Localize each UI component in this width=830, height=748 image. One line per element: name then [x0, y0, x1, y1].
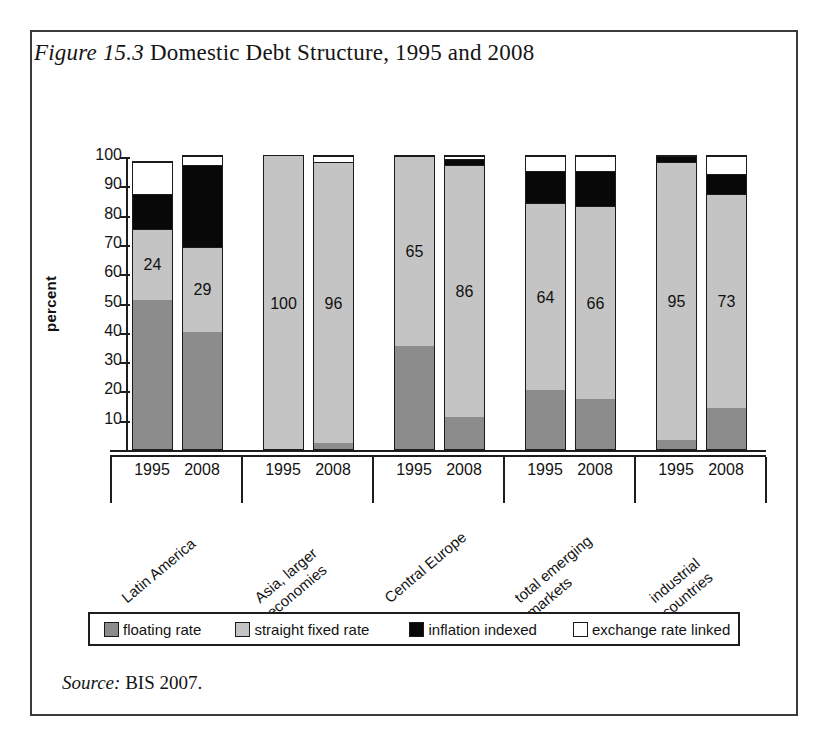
source-label: Source:	[62, 672, 120, 693]
stacked-bar[interactable]: 64	[525, 155, 566, 450]
bar-segment-floating[interactable]	[133, 300, 172, 449]
bar-segment-exchange[interactable]	[314, 156, 353, 162]
segment-divider	[707, 174, 746, 175]
segment-divider	[133, 229, 172, 230]
x-axis-year-label: 1995	[519, 461, 571, 479]
bar-segment-inflation[interactable]	[133, 194, 172, 229]
figure-title-text: Domestic Debt Structure, 1995 and 2008	[144, 40, 534, 65]
segment-divider	[657, 162, 696, 163]
group-name-line1: Central Europe	[381, 528, 469, 606]
bar-group: 6586	[372, 127, 503, 452]
chart-legend: floating ratestraight fixed rateinflatio…	[88, 612, 740, 646]
bar-segment-inflation[interactable]	[526, 171, 565, 203]
segment-divider	[133, 194, 172, 195]
bar-segment-floating[interactable]	[707, 408, 746, 449]
bar-segment-exchange[interactable]	[445, 156, 484, 159]
segment-divider	[576, 206, 615, 207]
legend-item-exchange[interactable]: exchange rate linked	[573, 621, 730, 638]
bar-value-label: 86	[445, 283, 484, 301]
bar-value-label: 95	[657, 293, 696, 311]
group-name-label: Latin America	[118, 535, 200, 608]
bar-segment-floating[interactable]	[445, 417, 484, 449]
segment-divider	[183, 156, 222, 157]
bar-segment-exchange[interactable]	[576, 156, 615, 171]
segment-divider	[314, 162, 353, 163]
bar-segment-inflation[interactable]	[445, 159, 484, 165]
legend-item-fixed[interactable]: straight fixed rate	[235, 621, 369, 638]
bar-segment-floating[interactable]	[526, 390, 565, 449]
bar-group: 6466	[503, 127, 634, 452]
x-axis-group-separator	[241, 457, 243, 503]
segment-divider	[314, 156, 353, 157]
y-axis-title: percent	[42, 276, 59, 332]
segment-divider	[445, 159, 484, 160]
legend-swatch-fixed	[235, 622, 250, 637]
bar-segment-floating[interactable]	[314, 443, 353, 449]
stacked-bar[interactable]: 24	[132, 161, 173, 450]
x-axis-year-band: 1995200819952008199520081995200819952008	[66, 455, 766, 505]
figure-number: Figure 15.3	[34, 40, 144, 65]
bar-segment-exchange[interactable]	[183, 156, 222, 165]
bar-group: 10096	[241, 127, 372, 452]
bar-value-label: 100	[264, 295, 303, 313]
stacked-bar[interactable]: 95	[656, 155, 697, 450]
bar-segment-floating[interactable]	[395, 346, 434, 449]
source-text: BIS 2007.	[120, 672, 202, 693]
legend-label: inflation indexed	[428, 621, 536, 638]
stacked-bar[interactable]: 65	[394, 155, 435, 450]
stacked-bar[interactable]: 73	[706, 155, 747, 450]
legend-item-floating[interactable]: floating rate	[104, 621, 201, 638]
x-axis-year-label: 2008	[438, 461, 490, 479]
group-name-label: total emergingmarkets	[511, 532, 608, 622]
x-axis-year-label: 1995	[388, 461, 440, 479]
bar-segment-inflation[interactable]	[707, 174, 746, 195]
bar-segment-floating[interactable]	[576, 399, 615, 449]
legend-swatch-inflation	[409, 622, 424, 637]
x-axis-year-label: 2008	[700, 461, 752, 479]
stacked-bar[interactable]: 86	[444, 155, 485, 450]
x-axis-group-separator	[110, 457, 112, 503]
legend-swatch-floating	[104, 622, 119, 637]
bar-segment-inflation[interactable]	[576, 171, 615, 206]
segment-divider	[526, 203, 565, 204]
stacked-bar[interactable]: 29	[182, 155, 223, 450]
segment-divider	[576, 156, 615, 157]
stacked-bar[interactable]: 96	[313, 155, 354, 450]
bar-value-label: 64	[526, 289, 565, 307]
bar-segment-exchange[interactable]	[526, 156, 565, 171]
x-axis-group: 19952008	[503, 455, 634, 505]
bar-segment-floating[interactable]	[183, 332, 222, 449]
segment-divider	[183, 247, 222, 248]
segment-divider	[133, 162, 172, 163]
segment-divider	[526, 156, 565, 157]
x-axis-group-separator	[372, 457, 374, 503]
x-axis-group: 19952008	[634, 455, 765, 505]
group-name-line1: Latin America	[118, 535, 199, 606]
x-axis-group-separator	[634, 457, 636, 503]
bar-value-label: 96	[314, 295, 353, 313]
segment-divider	[183, 165, 222, 166]
x-axis-group-separator	[503, 457, 505, 503]
x-axis-year-label: 1995	[257, 461, 309, 479]
figure-title: Figure 15.3 Domestic Debt Structure, 199…	[34, 40, 534, 66]
bar-segment-inflation[interactable]	[183, 165, 222, 247]
segment-divider	[526, 171, 565, 172]
group-name-label: Central Europe	[381, 528, 470, 607]
bar-segment-inflation[interactable]	[657, 156, 696, 162]
bar-value-label: 66	[576, 295, 615, 313]
segment-divider	[707, 156, 746, 157]
stacked-bar[interactable]: 100	[263, 155, 304, 450]
legend-item-inflation[interactable]: inflation indexed	[409, 621, 536, 638]
chart-plot-area: percent 100908070605040302010 2429100966…	[66, 127, 766, 457]
legend-label: straight fixed rate	[254, 621, 369, 638]
segment-divider	[445, 165, 484, 166]
stacked-bar[interactable]: 66	[575, 155, 616, 450]
bar-segment-floating[interactable]	[657, 440, 696, 449]
bar-group: 2429	[110, 127, 241, 452]
bar-segment-exchange[interactable]	[707, 156, 746, 174]
x-axis-group-separator	[765, 457, 767, 503]
bar-segment-exchange[interactable]	[133, 162, 172, 194]
bar-value-label: 65	[395, 243, 434, 261]
x-axis-year-label: 2008	[307, 461, 359, 479]
x-axis-group: 19952008	[110, 455, 241, 505]
